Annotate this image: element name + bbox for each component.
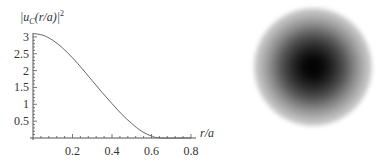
x-tick-label: 0.6: [144, 144, 159, 158]
y-axis-label: |uC(r/a)|2: [20, 9, 64, 26]
profile-curve: [33, 34, 191, 139]
density-disk-image: [254, 8, 372, 126]
y-tick-label: 1: [23, 97, 29, 111]
y-tick-labels: 0.511.522.53: [14, 30, 29, 128]
x-tick-label: 0.8: [184, 144, 199, 158]
y-tick-label: 0.5: [14, 114, 29, 128]
y-ticks: [33, 37, 37, 135]
x-tick-labels: 0.20.40.60.8: [65, 144, 199, 158]
y-tick-label: 3: [23, 30, 29, 44]
y-tick-label: 2: [23, 64, 29, 78]
y-tick-label: 2.5: [14, 47, 29, 61]
x-tick-label: 0.2: [65, 144, 80, 158]
y-tick-label: 1.5: [14, 80, 29, 94]
x-axis-label: r/a: [200, 126, 214, 140]
radial-profile-plot: |uC(r/a)|2 0.511.522.53 0.20.40.60.8 r/a: [0, 0, 240, 162]
x-tick-label: 0.4: [105, 144, 120, 158]
x-ticks: [41, 134, 191, 138]
